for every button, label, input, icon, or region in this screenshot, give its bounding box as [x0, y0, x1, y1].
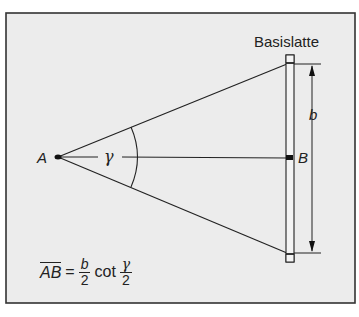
- point-a-label: A: [37, 150, 47, 165]
- angle-gamma-label: γ: [104, 149, 114, 165]
- fraction-numerator: b: [79, 257, 91, 273]
- basislatte-label: Basislatte: [254, 34, 319, 49]
- formula-cot: cot: [94, 263, 115, 281]
- point-a-marker: [55, 155, 62, 160]
- fraction-denominator: 2: [122, 273, 130, 288]
- point-b-marker: [286, 155, 293, 160]
- fraction-gamma-over-2: γ 2: [120, 257, 132, 287]
- rod-top-cap: [286, 55, 294, 63]
- fraction-b-over-2: b 2: [79, 257, 91, 287]
- formula: AB = b 2 cot γ 2: [40, 257, 132, 287]
- formula-equals: =: [65, 263, 74, 281]
- formula-lhs: AB: [40, 262, 61, 282]
- fraction-numerator: γ: [120, 257, 132, 273]
- length-b-label: b: [309, 107, 317, 122]
- rod-bottom-cap: [286, 254, 294, 262]
- fraction-denominator: 2: [81, 273, 89, 288]
- point-b-label: B: [298, 150, 308, 165]
